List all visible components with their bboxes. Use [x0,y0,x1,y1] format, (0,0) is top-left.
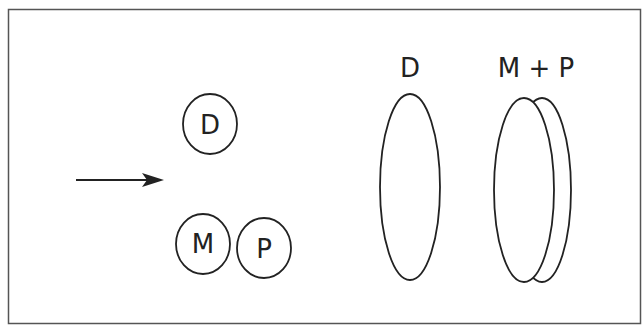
circle-m: M [176,214,230,274]
right-arrow-icon [76,173,164,187]
ellipses-mp-label: M + P [498,53,574,83]
circle-m-label: M [192,229,214,259]
diagram-canvas: D M P D M + P [0,0,642,327]
ellipse-m-front [494,98,554,282]
circle-d-label: D [200,110,220,140]
ellipse-d-label: D [400,53,420,83]
circle-p-label: P [256,234,272,264]
ellipse-d [380,94,440,280]
circle-d: D [183,94,237,154]
ellipses-mp [494,98,571,282]
circle-p: P [237,218,291,278]
